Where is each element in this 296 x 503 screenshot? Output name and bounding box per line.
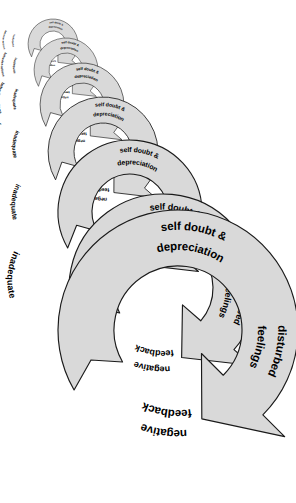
spiral-diagram-canvas: self doubt &depreciationdisturbedfeeling… xyxy=(0,0,296,503)
label-negative-feedback-line2: feedback xyxy=(132,342,174,358)
label-inadequate-behavior-line2: behavior-actions xyxy=(1,30,7,51)
label-inadequate-behavior-line1: inadequate xyxy=(11,130,21,159)
label-inadequate-behavior-line2: behavior-actions xyxy=(0,121,3,164)
label-inadequate-behavior-line1: inadequate xyxy=(11,34,16,48)
label-negative-feedback-line2: feedback xyxy=(139,400,192,420)
cycles-layer: self doubt &depreciationdisturbedfeeling… xyxy=(0,19,296,440)
label-inadequate-behavior-line1: inadequate xyxy=(12,57,18,74)
label-inadequate-behavior-line1: inadequate xyxy=(9,183,22,221)
cycle-7: self doubt &depreciationdisturbedfeeling… xyxy=(0,210,296,440)
label-inadequate-behavior-line1: inadequate xyxy=(5,250,21,299)
vicious-cycle-diagram: self doubt &depreciationdisturbedfeeling… xyxy=(0,0,296,503)
label-inadequate-behavior-line2: behavior-actions xyxy=(0,81,6,114)
label-negative-feedback-line1: negative xyxy=(139,422,188,441)
label-inadequate-behavior-line1: inadequate xyxy=(12,88,20,111)
label-negative-feedback-line1: negative xyxy=(132,359,170,374)
label-inadequate-behavior-line2: behavior-actions xyxy=(0,52,8,78)
